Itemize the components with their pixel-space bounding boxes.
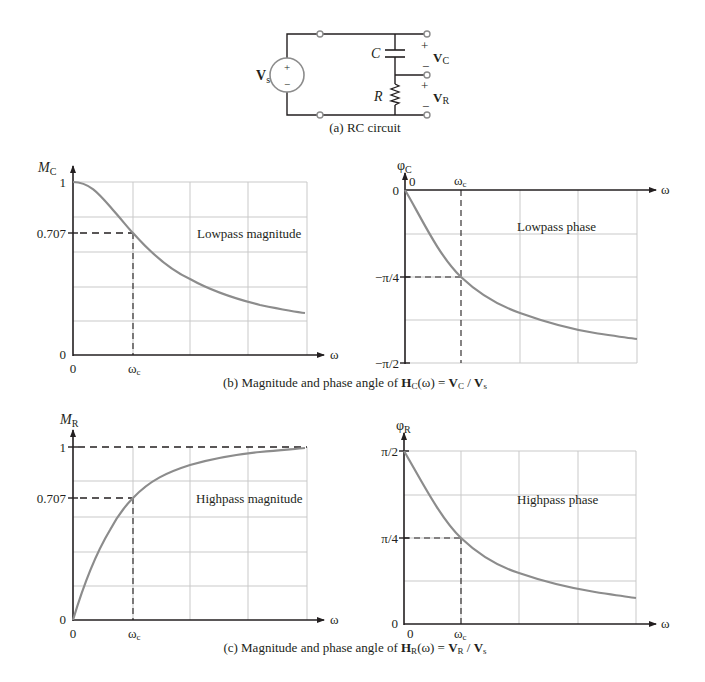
lowpass-magnitude-chart: MC 1 0.707 0 0 ωc ω Lowpass magnitude	[37, 160, 339, 377]
y-tick: 0.707	[37, 226, 67, 241]
chart-grid	[73, 182, 307, 355]
highpass-phase-chart: φR π/2 π/4 0 0 ωc ω Highpass phase	[381, 418, 670, 642]
caption-c: (c) Magnitude and phase angle of HR(ω) =…	[223, 640, 487, 656]
y-tick: −π/2	[375, 356, 399, 371]
x-tick: 0	[409, 174, 416, 189]
source-label: Vs	[256, 68, 270, 85]
terminal-node	[317, 31, 323, 37]
resistor-label: R	[373, 89, 383, 104]
y-tick: 0	[392, 616, 399, 631]
y-axis-label: φR	[396, 418, 411, 435]
x-axis-label: ω	[330, 347, 339, 362]
caption-b: (b) Magnitude and phase angle of HC(ω) =…	[223, 375, 487, 391]
voltage-source-symbol: + −	[270, 58, 304, 92]
resistor-symbol	[391, 84, 399, 105]
vr-minus: −	[422, 99, 429, 114]
circuit-wire	[287, 92, 424, 115]
vc-label: VC	[433, 50, 449, 66]
circuit-caption: (a) RC circuit	[329, 120, 401, 135]
chart-title: Lowpass magnitude	[197, 226, 302, 241]
source-minus: −	[284, 78, 290, 90]
phase-curve	[404, 451, 636, 598]
magnitude-curve	[73, 448, 305, 620]
vr-label: VR	[433, 90, 449, 106]
vc-minus: −	[422, 59, 429, 74]
vr-plus: +	[421, 78, 428, 93]
y-tick: π/2	[381, 444, 398, 459]
y-tick: 0.707	[37, 491, 67, 506]
chart-title: Highpass phase	[517, 492, 598, 507]
chart-title: Lowpass phase	[517, 219, 596, 234]
y-tick: 0	[393, 183, 400, 198]
x-axis-label: ω	[661, 182, 670, 197]
x-tick: 0	[70, 361, 77, 376]
y-axis-label: φC	[397, 158, 412, 175]
terminal-node	[424, 31, 430, 37]
highpass-magnitude-chart: MR 1 0.707 0 0 ωc ω Highpass magnitude	[37, 412, 339, 642]
rc-circuit: + − Vs C R + VC − + VR − (a) RC circuit	[256, 31, 449, 135]
y-tick: 1	[60, 440, 67, 455]
x-tick-wc: ωc	[454, 173, 467, 189]
y-tick: −π/4	[375, 270, 400, 285]
y-tick: 1	[60, 175, 67, 190]
y-axis-label: MC	[37, 160, 57, 177]
x-axis-label: ω	[661, 616, 670, 631]
vc-plus: +	[421, 38, 428, 53]
figure: + − Vs C R + VC − + VR − (a) RC circuit	[0, 0, 705, 682]
capacitor-symbol	[385, 50, 405, 57]
phase-curve	[405, 190, 637, 339]
x-tick-wc: ωc	[128, 626, 141, 642]
x-tick: 0	[407, 626, 414, 641]
x-tick: 0	[70, 626, 77, 641]
chart-title: Highpass magnitude	[196, 491, 303, 506]
y-tick: 0	[60, 612, 67, 627]
magnitude-curve	[73, 182, 305, 313]
y-tick: π/4	[381, 531, 398, 546]
lowpass-phase-chart: φC 0 −π/4 −π/2 0 ωc ω Lowpass phase	[375, 158, 670, 371]
source-plus: +	[284, 61, 290, 73]
terminal-node	[317, 112, 323, 118]
circuit-wire	[287, 34, 424, 58]
y-tick: 0	[60, 347, 67, 362]
x-axis-label: ω	[330, 612, 339, 627]
x-tick-wc: ωc	[128, 361, 141, 377]
capacitor-label: C	[371, 46, 381, 61]
y-axis-label: MR	[59, 412, 79, 429]
